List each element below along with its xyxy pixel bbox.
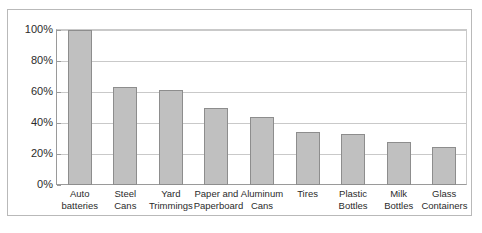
bar [387, 142, 411, 185]
y-axis: 0%20%40%60%80%100% [8, 29, 53, 186]
y-axis-tick-label: 60% [13, 86, 53, 97]
y-axis-tick-label: 20% [13, 148, 53, 159]
x-axis-tick-label: Auto batteries [57, 188, 103, 211]
x-axis-tick-label: Milk Bottles [376, 188, 422, 211]
x-axis-tick-label: Steel Cans [103, 188, 149, 211]
x-axis-tick-label: Glass Containers [421, 188, 467, 211]
bar [204, 108, 228, 186]
x-axis-tick-label: Paper and Paperboard [194, 188, 240, 211]
bar [432, 147, 456, 185]
x-axis-tick-label: Yard Trimmings [148, 188, 194, 211]
y-axis-tick-label: 80% [13, 55, 53, 66]
bar [68, 30, 92, 185]
x-axis-tick-label: Aluminum Cans [239, 188, 285, 211]
x-axis-tick-label: Tires [285, 188, 331, 200]
bar [296, 132, 320, 185]
bar [113, 87, 137, 185]
y-axis-tick-label: 100% [13, 24, 53, 35]
y-axis-tick [57, 185, 61, 186]
bar [159, 90, 183, 185]
y-axis-tick-label: 0% [13, 179, 53, 190]
y-axis-tick-label: 40% [13, 117, 53, 128]
x-axis-tick-label: Plastic Bottles [330, 188, 376, 211]
bar [341, 134, 365, 185]
bar [250, 117, 274, 185]
x-axis: Auto batteriesSteel CansYard TrimmingsPa… [57, 188, 467, 216]
bar-series [57, 30, 467, 185]
chart-frame: 0%20%40%60%80%100% Auto batteriesSteel C… [7, 9, 472, 216]
